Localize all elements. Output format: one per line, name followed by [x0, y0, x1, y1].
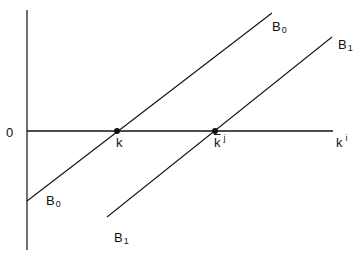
x-axis-label-sup: i — [346, 133, 348, 143]
x-axis-label-base: k — [336, 135, 343, 150]
b1-bottom-sub: 1 — [124, 236, 129, 246]
point-k-bar-j-base: k — [214, 135, 221, 150]
point-k-bar-j-label: kj — [214, 136, 226, 149]
line-b1 — [107, 37, 332, 217]
diagram-canvas — [0, 0, 361, 257]
b1-top-label: B1 — [338, 38, 353, 51]
x-axis-label: ki — [336, 136, 348, 149]
b1-bottom-base: B — [114, 230, 123, 245]
b0-top-label: B0 — [272, 20, 287, 33]
point-k-bar-j — [212, 128, 218, 134]
b1-top-sub: 1 — [348, 43, 353, 53]
b0-bottom-label: B0 — [46, 194, 61, 207]
b1-bottom-label: B1 — [114, 231, 129, 244]
b1-top-base: B — [338, 37, 347, 52]
point-k-base: k — [116, 135, 123, 150]
point-k — [114, 128, 120, 134]
b0-top-sub: 0 — [282, 25, 287, 35]
origin-label: 0 — [6, 126, 13, 139]
b0-top-base: B — [272, 19, 281, 34]
point-k-label: k — [116, 136, 123, 149]
b0-bottom-base: B — [46, 193, 55, 208]
point-k-bar-j-sup: j — [224, 133, 226, 143]
b0-bottom-sub: 0 — [56, 199, 61, 209]
line-b0 — [27, 13, 272, 201]
